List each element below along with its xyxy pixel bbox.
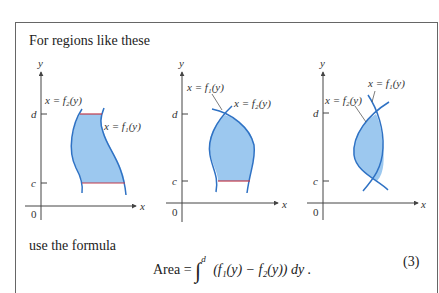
figure-1: y x 0 d c x = f₂(y) x = f₁(y): [25, 57, 145, 220]
equation-number: (3): [403, 254, 419, 270]
curve-label-f2: x = f₂(y): [233, 97, 271, 110]
y-axis-label: y: [37, 57, 43, 69]
tick-d-label: d: [313, 107, 319, 119]
y-axis-label: y: [319, 57, 325, 69]
y-axis-label: y: [178, 57, 184, 69]
tick-d-label: d: [172, 108, 178, 120]
tick-c-label: c: [31, 177, 36, 189]
x-axis-label: x: [139, 200, 145, 212]
formula-lhs: Area =: [153, 262, 195, 277]
curve-label-f2: x = f₂(y): [324, 94, 362, 107]
figure-3: y x 0 d c x = f₁(y) x = f₂(y): [307, 57, 426, 220]
tick-c-label: c: [313, 175, 318, 187]
curve-label-f1: x = f₁(y): [103, 120, 141, 133]
origin-label: 0: [313, 206, 319, 218]
curve-label-f2: x = f₂(y): [44, 94, 82, 107]
leader-f1: [372, 91, 375, 102]
figure-2: y x 0 d c x = f₁(y) x = f₂(y): [166, 57, 287, 222]
x-axis-label: x: [420, 198, 426, 210]
shaded-region: [354, 114, 384, 181]
integral-upper-limit: d: [201, 254, 206, 264]
origin-label: 0: [172, 206, 178, 218]
leader-f1: [212, 94, 222, 110]
leader-f2: [355, 106, 366, 122]
x-axis-label: x: [281, 198, 287, 210]
tick-c-label: c: [172, 175, 177, 187]
tick-d-label: d: [31, 108, 37, 120]
area-formula: Area = ∫d (f₁(y) − f₂(y)) dy .: [153, 254, 311, 280]
curve-label-f1: x = f₁(y): [367, 77, 405, 90]
curve-label-f1: x = f₁(y): [186, 81, 224, 94]
origin-label: 0: [31, 208, 37, 220]
integrand: (f₁(y) − f₂(y)) dy .: [213, 262, 311, 277]
